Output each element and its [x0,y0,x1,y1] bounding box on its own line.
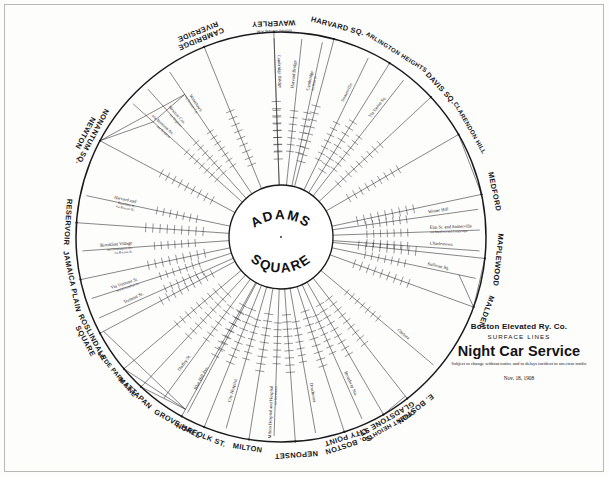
route-spoke [290,288,316,433]
time-tick [245,156,254,159]
time-tick [394,241,395,249]
time-tick [400,277,403,286]
time-tick [373,239,374,247]
route-spoke [333,241,480,251]
time-tick [344,289,349,295]
time-tick [172,268,174,276]
time-tick [326,345,333,348]
route-label-group: Brookline Villageand Huntington Av.via B… [100,240,133,255]
time-tick [320,308,328,313]
time-tick [321,333,328,336]
time-tick [400,241,401,249]
time-tick [222,152,229,156]
time-tick [209,172,214,178]
time-tick [301,310,310,313]
route-label: Broadway Sta. [343,370,358,396]
connector-line [100,122,153,141]
time-tick [366,264,369,273]
route-label-group: Elm St. and Somervillevia Medford and Ca… [430,223,472,234]
time-tick [310,337,319,340]
time-tick [359,262,362,271]
time-tick [228,329,235,333]
terminal-name: CLARENDON HILL [452,100,488,155]
terminal-name: MEDFORD [486,171,503,212]
time-tick [181,240,182,248]
time-tick [185,311,191,318]
time-tick [199,163,204,169]
time-tick [188,239,189,247]
route-label: Milton Hospital and Hospital [267,385,274,439]
time-tick [343,318,350,324]
route-label-group: Tremont St. [123,291,145,304]
time-tick [159,169,163,177]
route-label: Chelsea [396,327,410,340]
terminal-label-group: MAPLEWOOD [491,233,506,287]
time-tick [239,143,248,146]
time-tick [360,302,365,308]
time-tick [242,321,251,324]
time-tick [185,264,187,272]
terminal-node-dot [181,415,183,417]
time-tick [284,343,293,344]
time-tick [318,326,325,329]
route-label-group: Broadway Sta. [343,370,358,396]
time-tick [341,132,349,137]
company-name: Boston Elevated Ry. Co. [436,322,602,331]
time-tick [192,262,194,270]
time-tick [248,163,257,166]
route-spoke [170,72,252,194]
time-tick [211,160,217,165]
time-tick [218,284,224,291]
time-tick [203,337,209,342]
time-tick [182,277,185,284]
time-tick [315,158,322,162]
route-label-group: Cambridge Bridge [277,54,283,88]
time-tick [211,135,218,139]
time-tick [352,330,359,336]
time-tick [185,283,189,291]
time-tick [214,141,221,145]
terminal-name: WAVERLEY [252,18,296,29]
time-tick [154,242,155,250]
time-tick [283,336,292,337]
time-tick [145,223,146,232]
terminal-node-dot [294,440,296,442]
time-tick [346,194,351,202]
night-car-service-map: Watertownvia Newton Cor.Newton Cor.via B… [0,0,609,477]
terminal-label-group: ARLINGTON HEIGHTS [365,30,429,73]
time-tick [343,151,349,156]
time-tick [170,282,173,289]
time-tick [227,304,233,309]
time-tick [193,140,199,145]
terminal-node-dot [75,222,77,224]
time-tick [198,145,204,150]
time-tick [219,315,225,320]
time-tick [284,350,293,351]
time-tick [331,167,337,172]
time-tick [215,321,221,326]
time-tick [352,140,358,145]
time-tick [176,279,179,286]
route-label-group: Chelsea [396,327,410,340]
time-tick [285,365,294,366]
time-tick [324,140,331,144]
time-tick [282,322,291,323]
time-tick [371,180,376,188]
time-tick [356,135,362,140]
time-tick [198,260,200,268]
terminal-label-group: NONANTUM SQ.NEWTON [67,103,111,166]
terminal-name: MAPLEWOOD [491,233,506,287]
time-tick [229,354,238,357]
time-tick [178,179,182,187]
time-tick [330,127,337,131]
time-tick [333,121,340,125]
route-label-group: Blue Hill Ave. [193,365,210,390]
route-label: City Hospital [227,378,239,403]
route-label-group: Via Tremont St.and Columbus Av. [110,276,140,294]
time-tick [365,183,370,191]
time-tick [180,316,186,323]
terminal-label-group: JAMAICA PLAIN [61,250,83,313]
route-label-group: Via Union Sq. [367,95,387,118]
time-tick [202,298,208,305]
time-tick [338,340,346,345]
